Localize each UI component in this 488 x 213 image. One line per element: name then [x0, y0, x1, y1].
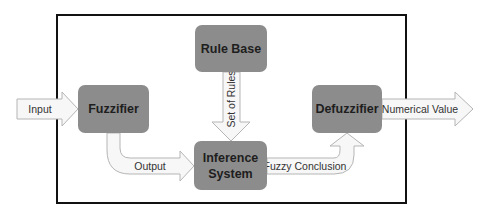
fuzzy-conclusion-label: Fuzzy Conclusion — [264, 160, 347, 172]
fuzzy-conclusion-arrow: Fuzzy Conclusion — [264, 133, 364, 174]
defuzzifier-label: Defuzzifier — [315, 102, 378, 116]
rule-base-label: Rule Base — [201, 42, 261, 56]
set-of-rules-label: Set of Rules — [225, 70, 237, 127]
defuzzifier-box: Defuzzifier — [312, 85, 382, 133]
numerical-value-arrow: Numerical Value — [382, 92, 473, 126]
numerical-value-label: Numerical Value — [382, 103, 458, 115]
output-arrow: Output — [107, 133, 194, 181]
fuzzifier-box: Fuzzifier — [78, 85, 149, 133]
input-arrow: Input — [17, 92, 78, 126]
fuzzy-system-diagram: Input Numerical Value Set of Rules Outpu… — [0, 0, 488, 213]
inference-label-line2: System — [208, 167, 252, 181]
input-label: Input — [28, 103, 51, 115]
inference-system-box: Inference System — [194, 141, 267, 190]
set-of-rules-arrow: Set of Rules — [212, 70, 250, 141]
output-label: Output — [134, 160, 166, 172]
inference-label-line1: Inference — [203, 151, 259, 165]
rule-base-box: Rule Base — [195, 25, 267, 72]
fuzzifier-label: Fuzzifier — [88, 102, 139, 116]
